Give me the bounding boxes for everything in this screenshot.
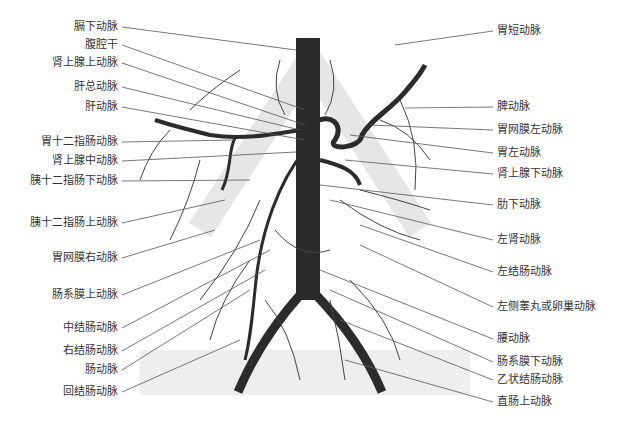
right-label: 脾动脉: [497, 100, 530, 114]
right-label: 腰动脉: [497, 332, 530, 346]
left-label: 肝总动脉: [74, 80, 118, 94]
left-label: 膈下动脉: [74, 20, 118, 34]
left-label: 胰十二指肠上动脉: [30, 216, 118, 230]
right-label: 胃短动脉: [497, 24, 541, 38]
left-label: 肠系膜上动脉: [52, 288, 118, 302]
right-label: 胃左动脉: [497, 146, 541, 160]
leader-line: [360, 245, 493, 307]
right-label: 胃网膜左动脉: [497, 123, 563, 137]
left-renal-artery: [320, 160, 360, 185]
right-label: 肠系膜下动脉: [497, 355, 563, 369]
leader-line: [122, 270, 265, 351]
leader-line: [370, 125, 493, 130]
leader-line: [122, 27, 296, 50]
left-label: 右结肠动脉: [63, 344, 118, 358]
leader-line: [122, 140, 235, 142]
leader-line: [122, 240, 260, 295]
leader-line: [122, 45, 305, 110]
leader-line: [122, 230, 215, 258]
aorta: [296, 38, 320, 300]
left-label: 回结肠动脉: [63, 385, 118, 399]
right-label: 左结肠动脉: [497, 265, 552, 279]
left-label: 肝动脉: [85, 100, 118, 114]
right-label: 直肠上动脉: [497, 395, 552, 409]
left-label: 胃十二指肠动脉: [41, 135, 118, 149]
branch-vessel: [190, 70, 240, 110]
right-label: 乙状结肠动脉: [497, 373, 563, 387]
left-label: 中结肠动脉: [63, 321, 118, 335]
right-label: 肾上腺下动脉: [497, 167, 563, 181]
leader-line: [122, 152, 296, 161]
left-label: 胃网膜右动脉: [52, 251, 118, 265]
leader-line: [360, 225, 493, 272]
right-label: 肋下动脉: [497, 198, 541, 212]
branch-vessel: [170, 160, 200, 240]
right-label: 左肾动脉: [497, 233, 541, 247]
watermark-band: [140, 350, 470, 395]
branch-vessel: [400, 100, 416, 190]
left-label: 肾上腺上动脉: [52, 56, 118, 70]
left-label: 腹腔干: [85, 38, 118, 52]
branch-vessel: [140, 130, 170, 180]
leader-line: [395, 31, 493, 45]
left-label: 胰十二指肠下动脉: [30, 174, 118, 188]
leader-line: [122, 250, 270, 328]
branch-vessel: [210, 260, 250, 340]
anatomy-diagram: 膈下动脉腹腔干肾上腺上动脉肝总动脉肝动脉胃十二指肠动脉肾上腺中动脉胰十二指肠下动…: [0, 0, 617, 425]
left-label: 肾上腺中动脉: [52, 154, 118, 168]
left-label: 肠动脉: [85, 363, 118, 377]
leader-line: [405, 107, 493, 108]
right-label: 左侧睾丸或卵巢动脉: [497, 300, 596, 314]
